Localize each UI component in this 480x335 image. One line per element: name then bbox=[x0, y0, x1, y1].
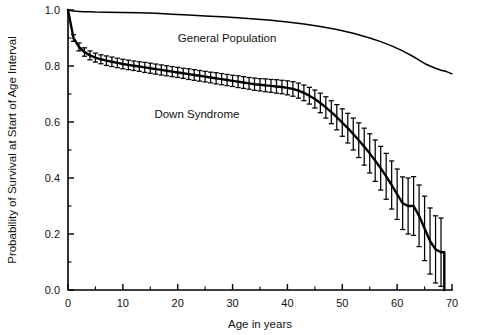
y-tick-label: 0.8 bbox=[45, 60, 60, 72]
y-tick-label: 1.0 bbox=[45, 4, 60, 16]
x-tick-label: 50 bbox=[336, 297, 348, 309]
y-tick-label: 0.2 bbox=[45, 228, 60, 240]
x-tick-label: 0 bbox=[65, 297, 71, 309]
x-tick-label: 40 bbox=[281, 297, 293, 309]
x-tick-label: 70 bbox=[446, 297, 458, 309]
x-tick-label: 60 bbox=[391, 297, 403, 309]
x-tick-label: 30 bbox=[226, 297, 238, 309]
y-tick-label: 0.0 bbox=[45, 284, 60, 296]
x-tick-label: 20 bbox=[172, 297, 184, 309]
survival-curve-figure: 010203040506070 0.00.20.40.60.81.0 Gener… bbox=[0, 0, 480, 335]
y-tick-label: 0.4 bbox=[45, 172, 60, 184]
y-tick-label: 0.6 bbox=[45, 116, 60, 128]
chart-canvas: 010203040506070 0.00.20.40.60.81.0 Gener… bbox=[0, 0, 480, 335]
plot-background bbox=[0, 0, 480, 335]
annotation-down-syndrome: Down Syndrome bbox=[154, 108, 239, 120]
x-tick-label: 10 bbox=[117, 297, 129, 309]
x-axis-title: Age in years bbox=[228, 318, 292, 330]
annotation-general-population: General Population bbox=[178, 32, 276, 44]
y-axis-title: Probability of Survival at Start of Age … bbox=[6, 36, 18, 264]
